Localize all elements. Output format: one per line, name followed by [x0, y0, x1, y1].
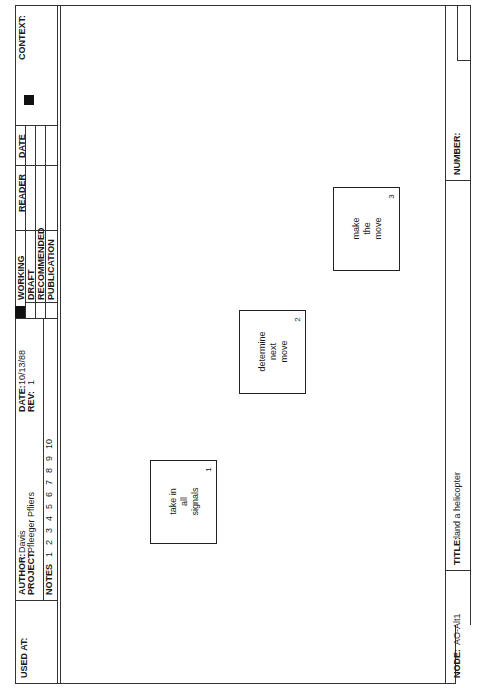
project-value: Pfleeger Pfliers [26, 492, 36, 553]
status-recommended: RECOMMENDED [36, 227, 46, 300]
box-2-line-3: move [279, 311, 290, 393]
footer-div-number [445, 180, 470, 181]
activity-box-1[interactable]: take in all signals 1 [150, 460, 217, 544]
rev-value: 1 [26, 380, 36, 385]
reader-label: READER [17, 174, 27, 212]
box-1-line-3: signals [190, 461, 201, 543]
activity-box-3-number: 3 [387, 194, 396, 198]
box-2-line-2: next [268, 311, 279, 393]
node-label: NODE: [452, 649, 462, 678]
box-3-line-3: move [373, 188, 384, 270]
header-div-context [15, 125, 57, 126]
box-3-line-2: the [362, 188, 373, 270]
activity-box-1-number: 1 [204, 467, 213, 471]
footer-div-node [445, 570, 470, 571]
notes-6: 6 [44, 492, 54, 497]
notes-4: 4 [44, 516, 54, 521]
project-label: PROJECT: [26, 550, 36, 595]
footer-notch-left [457, 5, 458, 60]
box-3-line-1: make [351, 188, 362, 270]
notes-7: 7 [44, 480, 54, 485]
context-label: CONTEXT: [17, 15, 27, 60]
activity-box-3[interactable]: make the move 3 [333, 187, 400, 271]
footer-divider [445, 5, 446, 683]
activity-box-2-number: 2 [293, 317, 302, 321]
notes-9: 9 [44, 456, 54, 461]
working-status-marker [15, 306, 25, 318]
rev-label: REV: [26, 391, 36, 412]
title-value: land a helicopter [452, 472, 462, 538]
header-div-status [15, 318, 57, 319]
notes-10: 10 [44, 439, 54, 449]
frame-bottom [15, 683, 455, 684]
number-label: NUMBER: [452, 133, 462, 176]
status-col-line-b [15, 165, 57, 166]
status-working: WORKING [16, 256, 26, 301]
activity-box-2-label: determine next move [257, 311, 290, 393]
activity-box-1-label: take in all signals [168, 461, 201, 543]
box-1-line-2: all [179, 461, 190, 543]
frame-top [15, 5, 470, 6]
node-value: AO-Alt1 [452, 613, 462, 645]
notes-1: 1 [44, 552, 54, 557]
status-publication: PUBLICATION [46, 239, 56, 300]
footer-notch-bottom [457, 60, 470, 61]
activity-box-2[interactable]: determine next move 2 [239, 310, 306, 394]
status-col-line-a [25, 302, 57, 303]
header-inner-divider [60, 5, 61, 683]
reader-date-label: DATE [17, 134, 27, 158]
used-at-label: USED AT: [19, 638, 29, 679]
title-label: TITLE: [452, 537, 462, 565]
status-draft: DRAFT [26, 270, 36, 301]
activity-box-3-label: make the move [351, 188, 384, 270]
notes-label: NOTES [44, 564, 54, 595]
notes-8: 8 [44, 468, 54, 473]
notes-3: 3 [44, 528, 54, 533]
header-divider [57, 5, 58, 683]
notes-5: 5 [44, 504, 54, 509]
context-marker [24, 95, 34, 105]
notes-2: 2 [44, 540, 54, 545]
footer-outer [470, 5, 471, 625]
box-2-line-1: determine [257, 311, 268, 393]
box-1-line-1: take in [168, 461, 179, 543]
header-div-usedat [15, 600, 57, 601]
frame-left [15, 5, 16, 683]
